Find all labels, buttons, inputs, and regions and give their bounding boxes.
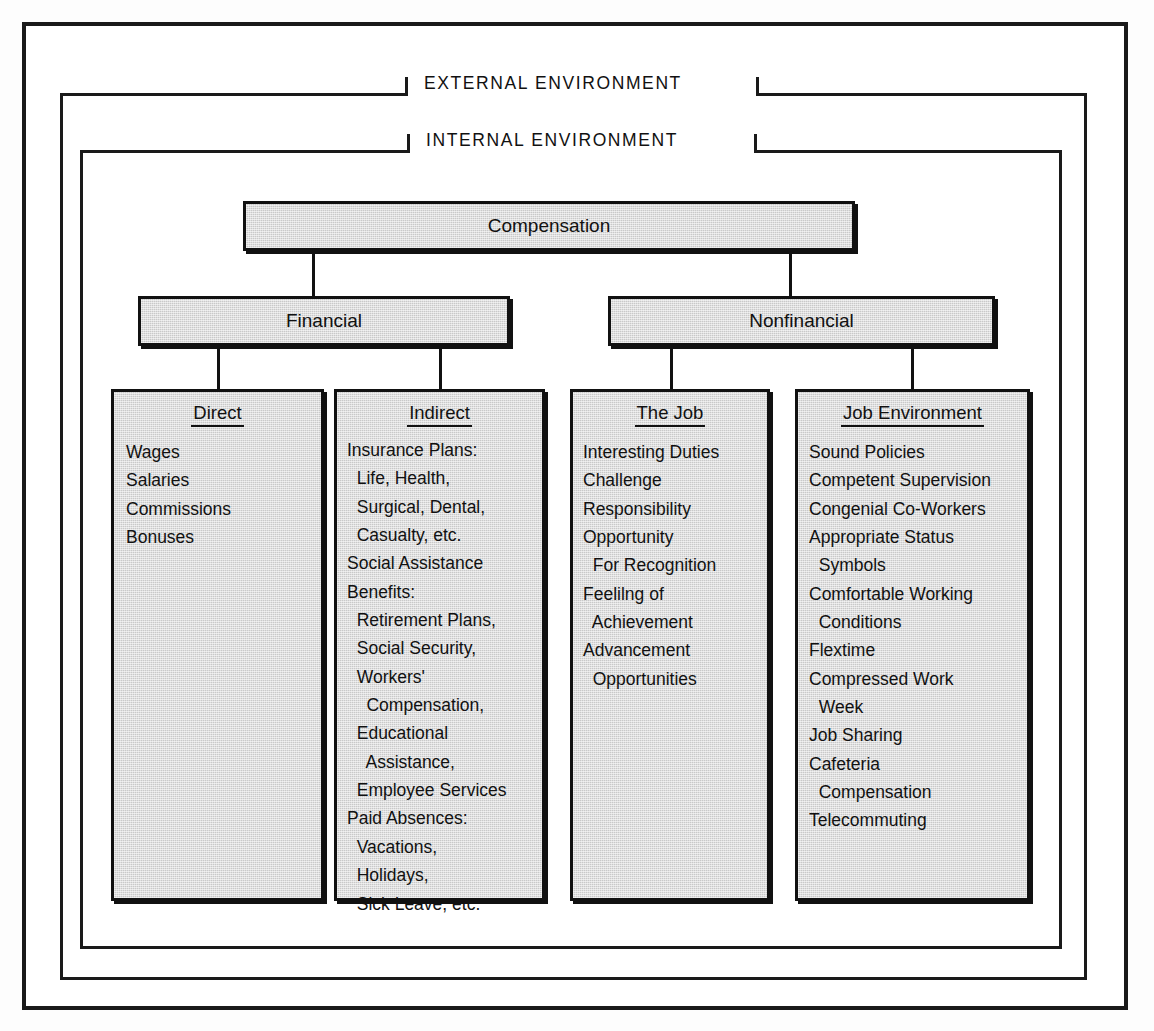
external-frame-left-tick — [405, 77, 408, 94]
node-direct-title: Direct — [114, 402, 321, 424]
node-the-job-list: Interesting Duties Challenge Responsibil… — [573, 438, 767, 693]
list-item: Assistance, — [347, 748, 536, 776]
node-financial[interactable]: Financial — [138, 296, 510, 346]
list-item: Congenial Co-Workers — [809, 495, 1021, 523]
internal-frame-top-left-segment — [80, 150, 410, 153]
list-item: Vacations, — [347, 833, 536, 861]
list-item: Compensation, — [347, 691, 536, 719]
list-item: Opportunity — [583, 523, 761, 551]
list-item: Wages — [126, 438, 315, 466]
list-item: Surgical, Dental, — [347, 493, 536, 521]
node-job-environment-title: Job Environment — [798, 402, 1027, 424]
list-item: Job Sharing — [809, 721, 1021, 749]
list-item: Cafeteria — [809, 750, 1021, 778]
list-item: Conditions — [809, 608, 1021, 636]
list-item: Social Security, — [347, 634, 536, 662]
list-item: Workers' — [347, 663, 536, 691]
list-item: Compressed Work — [809, 665, 1021, 693]
node-financial-label: Financial — [141, 310, 507, 332]
external-frame-bottom-edge — [60, 977, 1087, 980]
node-direct[interactable]: Direct Wages Salaries Commissions Bonuse… — [111, 389, 324, 901]
list-item: Opportunities — [583, 665, 761, 693]
list-item: Paid Absences: — [347, 804, 536, 832]
list-item: Feelilng of — [583, 580, 761, 608]
node-indirect-title: Indirect — [337, 402, 542, 424]
external-frame-top-left-segment — [60, 93, 408, 96]
node-the-job-title: The Job — [573, 402, 767, 424]
node-nonfinancial-label: Nonfinancial — [611, 310, 992, 332]
node-the-job[interactable]: The Job Interesting Duties Challenge Res… — [570, 389, 770, 901]
connector-nonfinancial-to-job-environment — [911, 345, 914, 389]
list-item: Holidays, — [347, 861, 536, 889]
diagram-canvas: EXTERNAL ENVIRONMENT INTERNAL ENVIRONMEN… — [0, 0, 1154, 1031]
connector-financial-to-direct — [217, 345, 220, 389]
connector-nonfinancial-to-the-job — [670, 345, 673, 389]
node-compensation-label: Compensation — [246, 215, 852, 237]
external-frame-top-right-segment — [756, 93, 1087, 96]
internal-frame-right-edge — [1059, 150, 1062, 948]
list-item: Telecommuting — [809, 806, 1021, 834]
connector-financial-to-indirect — [439, 345, 442, 389]
connector-compensation-to-nonfinancial — [789, 250, 792, 296]
external-frame-left-edge — [60, 93, 63, 980]
node-job-environment[interactable]: Job Environment Sound Policies Competent… — [795, 389, 1030, 901]
internal-frame-top-right-segment — [754, 150, 1062, 153]
list-item: Challenge — [583, 466, 761, 494]
list-item: Interesting Duties — [583, 438, 761, 466]
list-item: Week — [809, 693, 1021, 721]
list-item: Employee Services — [347, 776, 536, 804]
list-item: Educational — [347, 719, 536, 747]
node-nonfinancial[interactable]: Nonfinancial — [608, 296, 995, 346]
node-indirect[interactable]: Indirect Insurance Plans: Life, Health, … — [334, 389, 545, 901]
list-item: Appropriate Status — [809, 523, 1021, 551]
list-item: Retirement Plans, — [347, 606, 536, 634]
list-item: Compensation — [809, 778, 1021, 806]
connector-compensation-to-financial — [312, 250, 315, 296]
list-item: Benefits: — [347, 578, 536, 606]
node-job-environment-list: Sound Policies Competent Supervision Con… — [798, 438, 1027, 835]
node-direct-list: Wages Salaries Commissions Bonuses — [114, 438, 321, 551]
list-item: Achievement — [583, 608, 761, 636]
list-item: Sick Leave, etc. — [347, 890, 536, 918]
internal-frame-right-tick — [754, 134, 757, 151]
list-item: Symbols — [809, 551, 1021, 579]
node-compensation[interactable]: Compensation — [243, 201, 855, 251]
list-item: For Recognition — [583, 551, 761, 579]
list-item: Competent Supervision — [809, 466, 1021, 494]
internal-frame-left-tick — [407, 134, 410, 151]
list-item: Life, Health, — [347, 464, 536, 492]
internal-frame-bottom-edge — [80, 946, 1062, 949]
list-item: Commissions — [126, 495, 315, 523]
internal-frame-left-edge — [80, 150, 83, 948]
list-item: Social Assistance — [347, 549, 536, 577]
list-item: Salaries — [126, 466, 315, 494]
external-frame-right-edge — [1084, 93, 1087, 980]
list-item: Sound Policies — [809, 438, 1021, 466]
internal-environment-label: INTERNAL ENVIRONMENT — [426, 130, 678, 151]
node-indirect-list: Insurance Plans: Life, Health, Surgical,… — [337, 436, 542, 918]
external-frame-right-tick — [756, 77, 759, 94]
list-item: Insurance Plans: — [347, 436, 536, 464]
list-item: Casualty, etc. — [347, 521, 536, 549]
list-item: Responsibility — [583, 495, 761, 523]
list-item: Bonuses — [126, 523, 315, 551]
list-item: Advancement — [583, 636, 761, 664]
external-environment-label: EXTERNAL ENVIRONMENT — [424, 73, 682, 94]
list-item: Comfortable Working — [809, 580, 1021, 608]
list-item: Flextime — [809, 636, 1021, 664]
